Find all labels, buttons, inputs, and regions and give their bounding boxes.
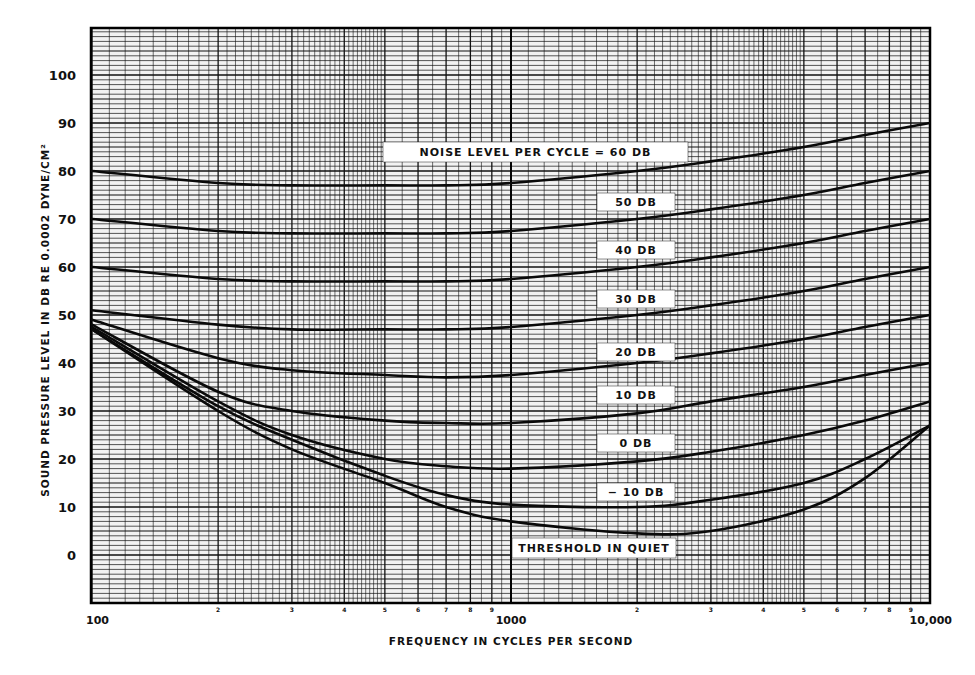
- y-tick-label: 40: [58, 356, 76, 371]
- x-axis-title: FREQUENCY IN CYCLES PER SECOND: [389, 635, 633, 647]
- x-minor-tick-label: 2: [216, 606, 220, 613]
- y-tick-label: 50: [58, 308, 76, 323]
- curve-label: 10 DB: [615, 389, 657, 402]
- x-minor-tick-label: 8: [887, 606, 891, 613]
- x-minor-tick-label: 3: [709, 606, 713, 613]
- y-tick-label: 70: [58, 212, 76, 227]
- x-minor-tick-label: 8: [468, 606, 472, 613]
- curve-label: 20 DB: [615, 346, 657, 359]
- curve-label: − 10 DB: [608, 486, 665, 499]
- x-minor-tick-label: 2: [635, 606, 639, 613]
- y-tick-label: 80: [58, 164, 76, 179]
- curve-label: NOISE LEVEL PER CYCLE = 60 DB: [420, 146, 652, 159]
- x-minor-tick-label: 9: [909, 606, 913, 613]
- curve-label: THRESHOLD IN QUIET: [518, 542, 670, 555]
- x-minor-tick-label: 5: [802, 606, 806, 613]
- y-tick-label: 90: [58, 116, 76, 131]
- curve-label: 30 DB: [615, 293, 657, 306]
- x-minor-tick-label: 4: [342, 606, 346, 613]
- y-tick-label: 60: [58, 260, 76, 275]
- chart: 0102030405060708090100 100100010,0002345…: [0, 0, 975, 675]
- x-minor-tick-label: 7: [863, 606, 867, 613]
- y-tick-label: 100: [49, 68, 76, 83]
- x-tick-label: 1000: [496, 614, 527, 627]
- curve-label: 50 DB: [615, 196, 657, 209]
- x-minor-tick-label: 3: [290, 606, 294, 613]
- y-tick-label: 10: [58, 500, 76, 515]
- x-minor-tick-label: 9: [490, 606, 494, 613]
- x-minor-tick-label: 4: [761, 606, 765, 613]
- x-minor-tick-label: 6: [835, 606, 839, 613]
- curve-label: 0 DB: [620, 437, 653, 450]
- x-minor-tick-label: 7: [444, 606, 448, 613]
- x-minor-tick-label: 5: [383, 606, 387, 613]
- y-tick-label: 0: [67, 548, 76, 563]
- x-minor-tick-label: 6: [416, 606, 420, 613]
- y-axis-ticks: 0102030405060708090100: [49, 68, 76, 563]
- y-axis-title: SOUND PRESSURE LEVEL IN DB RE 0.0002 DYN…: [39, 143, 51, 497]
- x-tick-label: 100: [86, 614, 109, 627]
- curve-label: 40 DB: [615, 244, 657, 257]
- x-tick-label: 10,000: [910, 614, 953, 627]
- y-tick-label: 30: [58, 404, 76, 419]
- y-tick-label: 20: [58, 452, 76, 467]
- x-axis-ticks: 100100010,0002345678923456789: [86, 606, 952, 627]
